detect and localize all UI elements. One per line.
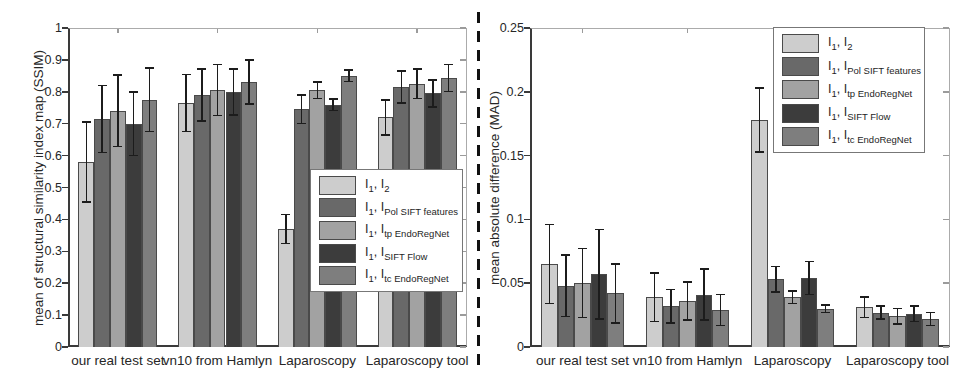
- legend-label: I1, Itp EndoRegNet: [828, 82, 912, 99]
- bar: [817, 309, 834, 347]
- y-tick-mark-right: [943, 91, 949, 93]
- legend-label: I1, IPol SIFT features: [365, 200, 458, 217]
- error-bar-cap-top: [683, 281, 692, 283]
- mad-chart: 00.050.10.150.20.25our real test setvn10…: [0, 0, 960, 381]
- error-bar-cap-top: [700, 268, 709, 270]
- legend-swatch: [782, 57, 819, 76]
- error-bar-line: [687, 282, 689, 320]
- error-bar-line: [703, 269, 705, 320]
- y-tick-mark: [524, 27, 530, 29]
- error-bar-cap-bottom: [611, 322, 620, 324]
- legend-label: I1, Itc EndoRegNet: [365, 267, 449, 284]
- error-bar-line: [930, 313, 932, 326]
- legend-swatch: [319, 266, 356, 285]
- error-bar-line: [598, 230, 600, 319]
- legend-item: I1, IPol SIFT features: [782, 57, 924, 76]
- legend-item: I1, I2: [319, 176, 462, 195]
- error-bar-line: [615, 264, 617, 323]
- y-tick-mark-right: [943, 282, 949, 284]
- error-bar-cap-bottom: [876, 318, 885, 320]
- error-bar-cap-bottom: [771, 291, 780, 293]
- error-bar-line: [670, 290, 672, 323]
- legend-swatch: [319, 221, 356, 240]
- error-bar-line: [549, 225, 551, 304]
- legend-label: I1, ISIFT Flow: [365, 245, 427, 262]
- error-bar-cap-top: [876, 305, 885, 307]
- legend-item: I1, Itp EndoRegNet: [319, 221, 462, 240]
- error-bar-cap-top: [578, 248, 587, 250]
- legend-swatch: [319, 176, 356, 195]
- error-bar-cap-bottom: [545, 303, 554, 305]
- legend: I1, I2I1, IPol SIFT featuresI1, Itp Endo…: [773, 27, 925, 153]
- error-bar-cap-top: [893, 308, 902, 310]
- y-tick-mark-right: [943, 346, 949, 348]
- legend-label: I1, Itc EndoRegNet: [828, 128, 912, 145]
- error-bar-cap-top: [650, 272, 659, 274]
- error-bar-cap-bottom: [788, 303, 797, 305]
- error-bar-cap-bottom: [666, 322, 675, 324]
- legend-swatch: [319, 198, 356, 217]
- y-tick-mark: [524, 282, 530, 284]
- error-bar-cap-bottom: [910, 321, 919, 323]
- error-bar-cap-bottom: [716, 325, 725, 327]
- legend-item: I1, ISIFT Flow: [319, 244, 462, 263]
- legend-item: I1, I2: [782, 34, 924, 53]
- error-bar-cap-bottom: [683, 319, 692, 321]
- error-bar-cap-top: [860, 296, 869, 298]
- y-tick-mark: [524, 91, 530, 93]
- error-bar-line: [720, 295, 722, 326]
- error-bar-cap-top: [788, 290, 797, 292]
- error-bar-cap-bottom: [578, 317, 587, 319]
- error-bar-cap-bottom: [821, 312, 830, 314]
- y-tick-mark-right: [943, 155, 949, 157]
- legend-swatch: [782, 80, 819, 99]
- y-tick-mark: [524, 346, 530, 348]
- error-bar-cap-bottom: [893, 323, 902, 325]
- legend-item: I1, IPol SIFT features: [319, 198, 462, 217]
- error-bar-cap-top: [926, 312, 935, 314]
- error-bar-cap-top: [755, 87, 764, 89]
- error-bar-cap-top: [595, 229, 604, 231]
- legend-label: I1, ISIFT Flow: [828, 105, 890, 122]
- legend-label: I1, I2: [828, 35, 853, 52]
- error-bar-line: [864, 297, 866, 317]
- legend-swatch: [782, 104, 819, 123]
- error-bar-cap-top: [910, 305, 919, 307]
- error-bar-line: [582, 249, 584, 318]
- x-category-label: Laparoscopy tool: [828, 353, 960, 369]
- error-bar-line: [897, 309, 899, 324]
- error-bar-cap-bottom: [755, 151, 764, 153]
- error-bar-cap-top: [611, 263, 620, 265]
- legend: I1, I2I1, IPol SIFT featuresI1, Itp Endo…: [310, 169, 463, 292]
- legend-label: I1, IPol SIFT features: [828, 59, 921, 76]
- error-bar-line: [792, 291, 794, 304]
- bar: [751, 120, 768, 347]
- y-axis-label: mean absolute difference (MAD): [485, 28, 503, 347]
- figure: 00.10.20.30.40.50.60.70.80.91our real te…: [0, 0, 960, 381]
- y-tick-mark: [524, 155, 530, 157]
- x-tick-mark-top: [687, 29, 689, 33]
- legend-item: I1, ISIFT Flow: [782, 104, 924, 123]
- error-bar-line: [775, 267, 777, 293]
- bar: [784, 297, 801, 347]
- legend-swatch: [782, 34, 819, 53]
- error-bar-cap-top: [821, 304, 830, 306]
- legend-swatch: [319, 244, 356, 263]
- error-bar-cap-bottom: [650, 321, 659, 323]
- error-bar-cap-bottom: [805, 294, 814, 296]
- error-bar-cap-top: [666, 289, 675, 291]
- error-bar-line: [913, 306, 915, 321]
- legend-swatch: [782, 127, 819, 146]
- error-bar-cap-top: [545, 224, 554, 226]
- error-bar-cap-top: [716, 294, 725, 296]
- error-bar-line: [759, 88, 761, 152]
- legend-item: I1, Itc EndoRegNet: [319, 266, 462, 285]
- error-bar-line: [565, 255, 567, 316]
- x-tick-mark-top: [582, 29, 584, 33]
- error-bar-line: [880, 306, 882, 319]
- legend-label: I1, I2: [365, 177, 390, 194]
- chart-divider: [477, 12, 480, 372]
- error-bar-line: [808, 262, 810, 295]
- error-bar-cap-bottom: [860, 317, 869, 319]
- error-bar-cap-top: [771, 266, 780, 268]
